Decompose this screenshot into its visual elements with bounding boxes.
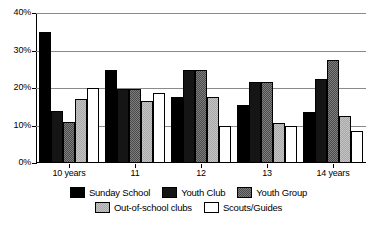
bar-group (168, 13, 234, 163)
bar (339, 116, 351, 163)
x-axis-label: 12 (168, 168, 234, 179)
legend-swatch-icon (237, 187, 252, 198)
legend-label: Sunday School (89, 187, 150, 198)
legend-label: Scouts/Guides (223, 202, 282, 213)
legend-item[interactable]: Scouts/Guides (204, 202, 282, 213)
bar (75, 99, 87, 163)
bar-group (36, 13, 102, 163)
bar (303, 112, 315, 163)
bar (261, 82, 273, 163)
y-tick-label: 0% (0, 158, 31, 167)
bar (141, 101, 153, 163)
x-axis-labels: 10 years11121314 years (36, 168, 366, 182)
x-tick-mark (333, 164, 334, 168)
x-tick-mark (201, 164, 202, 168)
chart-legend: Sunday SchoolYouth ClubYouth GroupOut-of… (0, 185, 377, 215)
x-axis-label: 13 (234, 168, 300, 179)
legend-item[interactable]: Youth Group (237, 187, 307, 198)
legend-item[interactable]: Sunday School (70, 187, 150, 198)
x-axis-label: 10 years (36, 168, 102, 179)
bar (237, 105, 249, 164)
x-tick-mark (69, 164, 70, 168)
x-tick-mark (267, 164, 268, 168)
bar (171, 97, 183, 163)
bar-group (234, 13, 300, 163)
bar (51, 111, 63, 164)
bar (285, 126, 297, 163)
y-tick-label: 20% (0, 83, 31, 92)
bar (105, 70, 117, 163)
bar (273, 123, 285, 163)
x-axis-label: 14 years (300, 168, 366, 179)
bar (87, 88, 99, 163)
legend-label: Out-of-school clubs (114, 202, 192, 213)
bar-group (300, 13, 366, 163)
bar (351, 131, 363, 163)
x-tick-mark (135, 164, 136, 168)
legend-swatch-icon (70, 187, 85, 198)
plot-area (36, 13, 366, 163)
bar (195, 70, 207, 163)
x-axis-label: 11 (102, 168, 168, 179)
bar (129, 89, 141, 163)
legend-item[interactable]: Out-of-school clubs (95, 202, 192, 213)
legend-swatch-icon (95, 202, 110, 213)
legend-label: Youth Group (256, 187, 307, 198)
bar (183, 70, 195, 163)
bar-group (102, 13, 168, 163)
legend-item[interactable]: Youth Club (162, 187, 225, 198)
bar (219, 126, 231, 163)
legend-row: Sunday SchoolYouth ClubYouth Group (0, 185, 377, 200)
bar-chart: 0%10%20%30%40% 10 years11121314 years Su… (0, 0, 377, 230)
y-tick-label: 30% (0, 46, 31, 55)
y-tick-label: 10% (0, 121, 31, 130)
legend-row: Out-of-school clubsScouts/Guides (0, 200, 377, 215)
bar (327, 60, 339, 163)
bar (63, 122, 75, 163)
legend-label: Youth Club (181, 187, 225, 198)
y-tick-label: 40% (0, 8, 31, 17)
legend-swatch-icon (162, 187, 177, 198)
bar (153, 93, 165, 164)
bar (39, 32, 51, 163)
bar (117, 89, 129, 163)
bar (249, 82, 261, 163)
bar (315, 79, 327, 163)
bar (207, 97, 219, 163)
legend-swatch-icon (204, 202, 219, 213)
